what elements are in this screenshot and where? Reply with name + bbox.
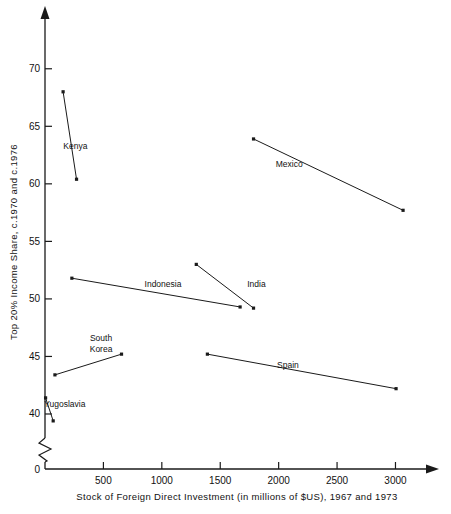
series-data-point (53, 373, 56, 376)
series-label: Mexico (276, 159, 303, 169)
y-tick-label: 70 (29, 63, 41, 74)
series-label: Spain (277, 360, 299, 370)
y-tick-label: 45 (29, 351, 41, 362)
series-mexico: Mexico (252, 137, 405, 212)
series-data-point (206, 353, 209, 356)
series-kenya: Kenya (62, 90, 88, 181)
tick-marks-group: 40455055606570050010001500200025003000 (29, 63, 407, 486)
series-data-point (238, 305, 241, 308)
series-label: SouthKorea (90, 333, 113, 354)
x-tick-label: 500 (95, 475, 112, 486)
series-data-point (52, 419, 55, 422)
series-label: Indonesia (145, 279, 182, 289)
series-connector-line (55, 354, 122, 375)
series-india: India (195, 263, 266, 310)
series-label: Yugoslavia (44, 399, 85, 409)
x-axis-title: Stock of Foreign Direct Investment (in m… (76, 491, 397, 502)
series-spain: Spain (206, 353, 398, 391)
series-data-point (394, 387, 397, 390)
x-tick-label: 2500 (326, 475, 349, 486)
scatter-line-chart: 40455055606570050010001500200025003000 K… (0, 0, 451, 514)
series-data-point (252, 137, 255, 140)
series-data-point (70, 277, 73, 280)
series-data-point (75, 178, 78, 181)
series-label: India (247, 279, 266, 289)
series-yugoslavia: Yugoslavia (44, 396, 86, 422)
axes-group (39, 6, 439, 474)
chart-container: 40455055606570050010001500200025003000 K… (0, 0, 451, 514)
series-south-korea: SouthKorea (53, 333, 123, 376)
y-tick-label: 65 (29, 121, 41, 132)
y-tick-label: 55 (29, 236, 41, 247)
series-indonesia: Indonesia (70, 277, 241, 309)
axis-break-icon (39, 438, 51, 462)
series-connector-line (63, 92, 76, 179)
x-tick-label: 3000 (384, 475, 407, 486)
x-tick-label: 1000 (151, 475, 174, 486)
series-data-point (401, 209, 404, 212)
x-tick-label: 1500 (209, 475, 232, 486)
series-connector-line (207, 354, 396, 389)
y-tick-label: 60 (29, 178, 41, 189)
x-axis-arrow-icon (426, 465, 439, 474)
series-connector-line (196, 264, 253, 308)
y-axis-arrow-icon (41, 6, 50, 19)
series-data-point (120, 353, 123, 356)
series-data-point (195, 263, 198, 266)
x-tick-label: 2000 (268, 475, 291, 486)
data-series-group: KenyaMexicoIndonesiaIndiaSouthKoreaSpain… (44, 90, 405, 422)
y-tick-label: 50 (29, 293, 41, 304)
series-data-point (62, 90, 65, 93)
y-tick-label: 40 (29, 408, 41, 419)
y-tick-label-zero: 0 (34, 464, 40, 475)
series-connector-line (254, 139, 404, 210)
y-axis-title: Top 20% Income Share, c.1970 and c.1976 (8, 144, 19, 340)
series-data-point (252, 307, 255, 310)
series-label: Kenya (63, 141, 87, 151)
